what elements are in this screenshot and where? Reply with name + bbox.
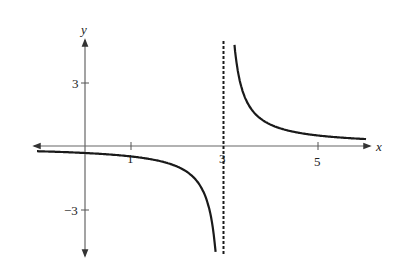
curve-right-branch [235, 45, 367, 139]
y-tick-label-neg3: −3 [64, 203, 78, 218]
x-tick-label-1: 1 [127, 151, 134, 166]
function-graph: x y 1 3 5 3 −3 [0, 0, 406, 273]
y-tick-label-3: 3 [72, 76, 79, 91]
y-axis-label: y [79, 22, 87, 37]
x-axis-label: x [375, 139, 382, 154]
x-tick-label-3: 3 [219, 151, 226, 166]
curve-left-branch [37, 151, 216, 252]
x-tick-label-5: 5 [314, 154, 321, 169]
